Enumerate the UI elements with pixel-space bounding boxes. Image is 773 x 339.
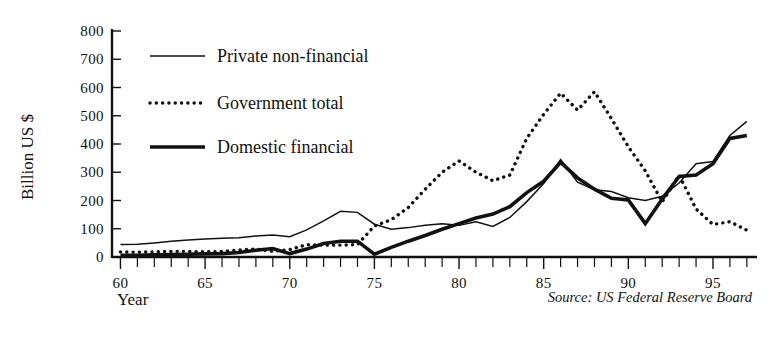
y-tick-label: 500 bbox=[80, 108, 104, 124]
x-axis-title: Year bbox=[117, 290, 149, 309]
line-chart: 0100200300400500600700800 60657075808590… bbox=[0, 0, 773, 339]
source-note: Source: US Federal Reserve Board bbox=[548, 289, 753, 305]
series-line-private-non-financial bbox=[120, 121, 746, 244]
chart-figure: 0100200300400500600700800 60657075808590… bbox=[0, 0, 773, 339]
legend-label-private-non-financial: Private non-financial bbox=[217, 46, 368, 66]
legend-label-domestic-financial: Domestic financial bbox=[217, 137, 353, 157]
x-axis-ticks bbox=[120, 257, 746, 269]
chart-series-group bbox=[120, 92, 746, 256]
x-tick-label: 80 bbox=[451, 275, 467, 291]
x-tick-label: 60 bbox=[113, 275, 129, 291]
x-tick-label: 75 bbox=[366, 275, 382, 291]
y-tick-label: 400 bbox=[80, 136, 104, 152]
series-line-government-total bbox=[120, 92, 746, 252]
y-tick-label: 600 bbox=[80, 80, 104, 96]
y-axis-ticks bbox=[112, 31, 121, 257]
y-tick-label: 0 bbox=[96, 249, 104, 265]
y-tick-label: 700 bbox=[80, 51, 104, 67]
x-tick-label: 70 bbox=[282, 275, 298, 291]
y-tick-label: 300 bbox=[80, 164, 104, 180]
y-tick-label: 800 bbox=[80, 23, 104, 39]
x-tick-label: 65 bbox=[197, 275, 213, 291]
y-tick-label: 100 bbox=[80, 221, 104, 237]
y-axis-tick-labels: 0100200300400500600700800 bbox=[80, 23, 104, 265]
legend-label-government-total: Government total bbox=[217, 93, 343, 113]
y-tick-label: 200 bbox=[80, 193, 104, 209]
y-axis-title: Billion US $ bbox=[18, 114, 37, 200]
series-line-domestic-financial bbox=[120, 136, 746, 256]
chart-legend: Private non-financial Government total D… bbox=[150, 46, 368, 157]
